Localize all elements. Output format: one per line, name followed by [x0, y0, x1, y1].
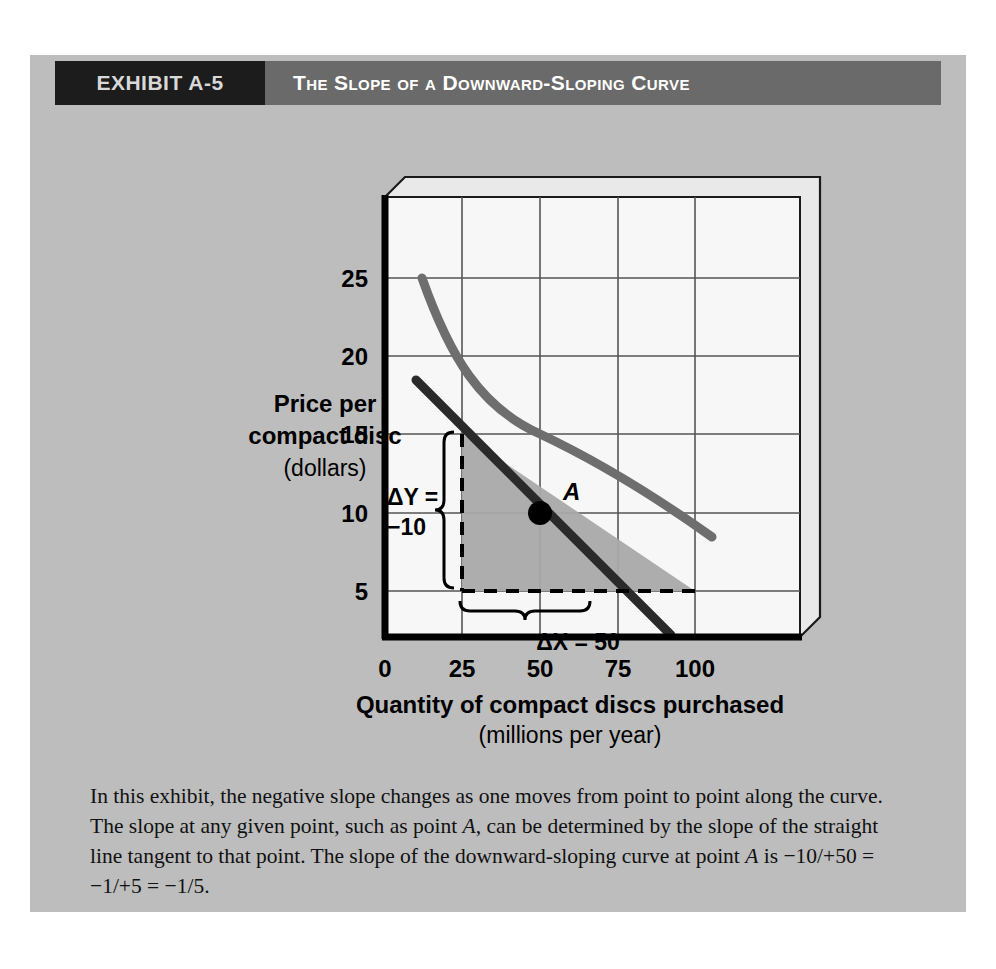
- exhibit-number-tag: EXHIBIT A-5: [55, 61, 265, 105]
- delta-y-label-line2: −10: [387, 514, 426, 540]
- y-tick-5: 5: [355, 578, 368, 605]
- x-tick-0: 0: [378, 655, 391, 682]
- caption-italic-a-2: A: [745, 844, 758, 868]
- delta-y-label-line1: ΔY =: [387, 484, 438, 510]
- point-a-label: A: [562, 478, 580, 505]
- exhibit-caption: In this exhibit, the negative slope chan…: [90, 781, 910, 901]
- x-tick-75: 75: [605, 655, 632, 682]
- x-axis-title: Quantity of compact discs purchased: [356, 691, 784, 718]
- exhibit-panel: EXHIBIT A-5 The Slope of a Downward-Slop…: [30, 55, 966, 912]
- y-axis-subtitle: (dollars): [283, 455, 366, 481]
- x-tick-100: 100: [675, 655, 715, 682]
- x-tick-25: 25: [449, 655, 476, 682]
- point-a-marker: [528, 501, 552, 525]
- y-axis-title-line1: Price per: [274, 390, 377, 417]
- exhibit-title: The Slope of a Downward-Sloping Curve: [265, 61, 941, 105]
- delta-x-label: ΔX = 50: [536, 629, 620, 655]
- y-tick-25: 25: [341, 265, 368, 292]
- y-axis-title-line2: compact disc: [248, 422, 401, 449]
- chart-svg: A ΔY = −10 ΔX = 50 25 20 15 10 5 0 25 50…: [30, 107, 966, 767]
- caption-italic-a-1: A: [463, 814, 476, 838]
- chart-figure: A ΔY = −10 ΔX = 50 25 20 15 10 5 0 25 50…: [30, 107, 966, 767]
- y-tick-20: 20: [341, 343, 368, 370]
- y-tick-10: 10: [341, 500, 368, 527]
- x-tick-50: 50: [527, 655, 554, 682]
- x-axis-subtitle: (millions per year): [479, 722, 662, 748]
- exhibit-header: EXHIBIT A-5 The Slope of a Downward-Slop…: [55, 61, 941, 105]
